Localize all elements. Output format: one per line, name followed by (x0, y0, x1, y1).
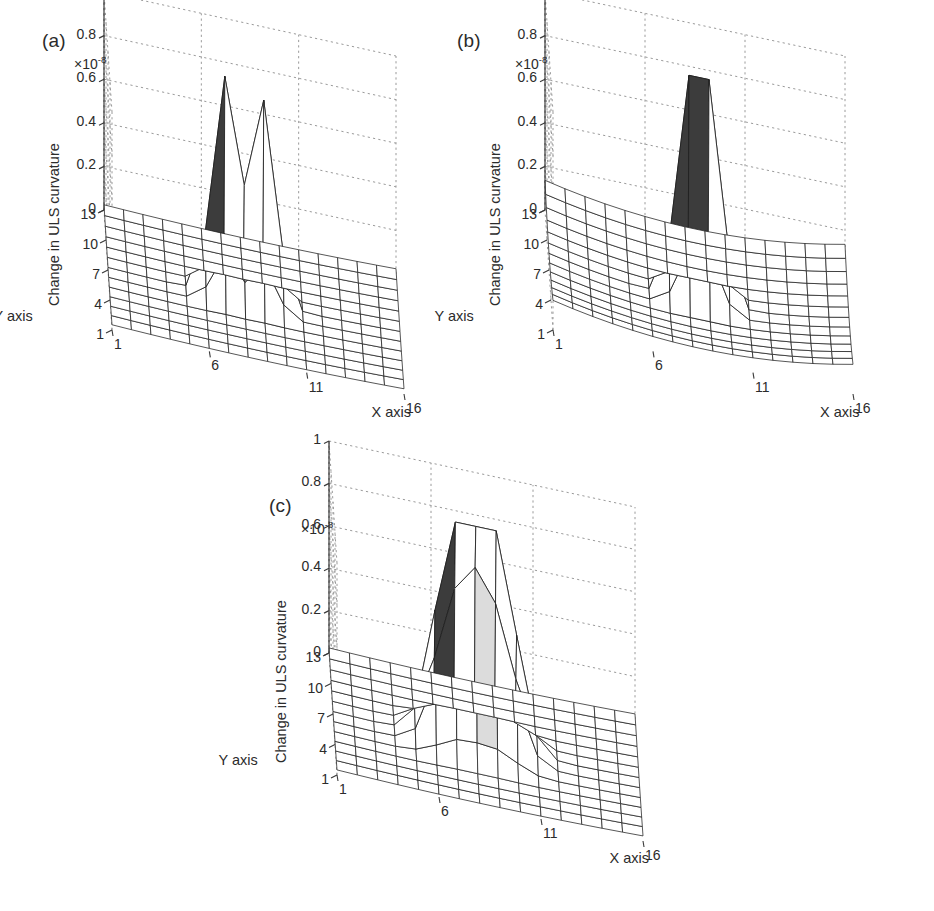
panel-c-ztick-1: 0.8 (277, 473, 321, 489)
panel-a-surface-plot (40, 30, 460, 460)
panel-c-ytick-0: 13 (279, 649, 321, 665)
panel-b-ytick-2: 7 (499, 266, 541, 282)
panel-b: (b) ×10-8 Change in ULS curvature 10.80.… (455, 30, 895, 460)
panel-c: (c) ×10-8 Change in ULS curvature 10.80.… (245, 495, 695, 895)
panel-a-ytick-0: 13 (54, 206, 96, 222)
panel-a-xtick-0: 1 (114, 336, 122, 352)
panel-a-y-axis-title: Y axis (0, 308, 33, 324)
panel-b-y-axis-title: Y axis (435, 308, 474, 324)
panel-b-ztick-2: 0.6 (493, 69, 537, 85)
panel-b-ztick-4: 0.2 (493, 156, 537, 172)
panel-c-ytick-4: 1 (287, 771, 329, 787)
panel-a-ztick-1: 0.8 (52, 26, 96, 42)
panel-c-ytick-1: 10 (281, 680, 323, 696)
panel-a-ztick-4: 0.2 (52, 156, 96, 172)
panel-a-ztick-3: 0.4 (52, 113, 96, 129)
panel-a-ztick-2: 0.6 (52, 69, 96, 85)
panel-b-ytick-3: 4 (501, 296, 543, 312)
panel-c-y-axis-title: Y axis (219, 752, 258, 768)
panel-b-xtick-2: 11 (755, 379, 770, 395)
panel-c-ytick-2: 7 (283, 710, 325, 726)
panel-a-x-axis-title: X axis (372, 404, 412, 420)
panel-a-ytick-1: 10 (56, 236, 98, 252)
panel-a-xtick-2: 11 (309, 379, 324, 395)
panel-c-ztick-0: 1 (277, 431, 321, 447)
panel-b-ytick-0: 13 (495, 206, 537, 222)
panel-c-xtick-0: 1 (339, 781, 347, 797)
panel-c-xtick-2: 11 (543, 825, 558, 841)
panel-c-x-axis-title: X axis (610, 850, 650, 866)
panel-b-xtick-1: 6 (655, 357, 663, 373)
panel-a-xtick-1: 6 (211, 357, 219, 373)
panel-b-xtick-0: 1 (555, 336, 563, 352)
panel-a-ytick-2: 7 (58, 266, 100, 282)
panel-b-label: (b) (457, 30, 481, 52)
panel-c-xtick-1: 6 (441, 803, 449, 819)
panel-c-ztick-3: 0.4 (277, 558, 321, 574)
figure-caption (60, 898, 880, 911)
panel-a-ytick-3: 4 (60, 296, 102, 312)
panel-c-ztick-4: 0.2 (277, 601, 321, 617)
panel-b-ytick-4: 1 (503, 326, 545, 342)
panel-c-ztick-2: 0.6 (277, 516, 321, 532)
panel-b-ztick-3: 0.4 (493, 113, 537, 129)
panel-a: (a) ×10-8 Change in ULS curvature 10.80.… (40, 30, 460, 460)
panel-a-ytick-4: 1 (62, 326, 104, 342)
figure-surface-plots: (a) ×10-8 Change in ULS curvature 10.80.… (0, 0, 934, 911)
panel-b-ztick-1: 0.8 (493, 26, 537, 42)
panel-b-x-axis-title: X axis (820, 404, 860, 420)
panel-b-ytick-1: 10 (497, 236, 539, 252)
panel-c-label: (c) (269, 495, 292, 517)
panel-c-ytick-3: 4 (285, 741, 327, 757)
